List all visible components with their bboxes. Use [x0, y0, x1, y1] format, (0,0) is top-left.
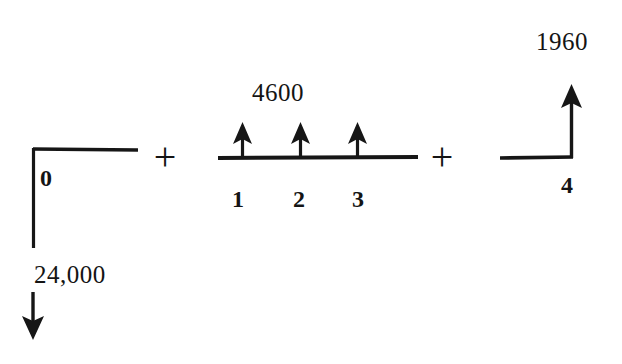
period-label-3: 3 [352, 186, 364, 212]
labels-layer: 0 24,000 4600 1 2 3 1960 4 [0, 0, 622, 364]
period-label-4: 4 [561, 172, 573, 198]
amount-label-24000: 24,000 [34, 261, 106, 288]
amount-label-1960: 1960 [536, 28, 588, 55]
cash-flow-diagram-canvas: + + 0 2 [0, 0, 622, 364]
period-label-1: 1 [232, 186, 244, 212]
amount-label-4600: 4600 [252, 79, 304, 106]
period-label-2: 2 [293, 186, 305, 212]
period-label-0: 0 [40, 165, 52, 191]
